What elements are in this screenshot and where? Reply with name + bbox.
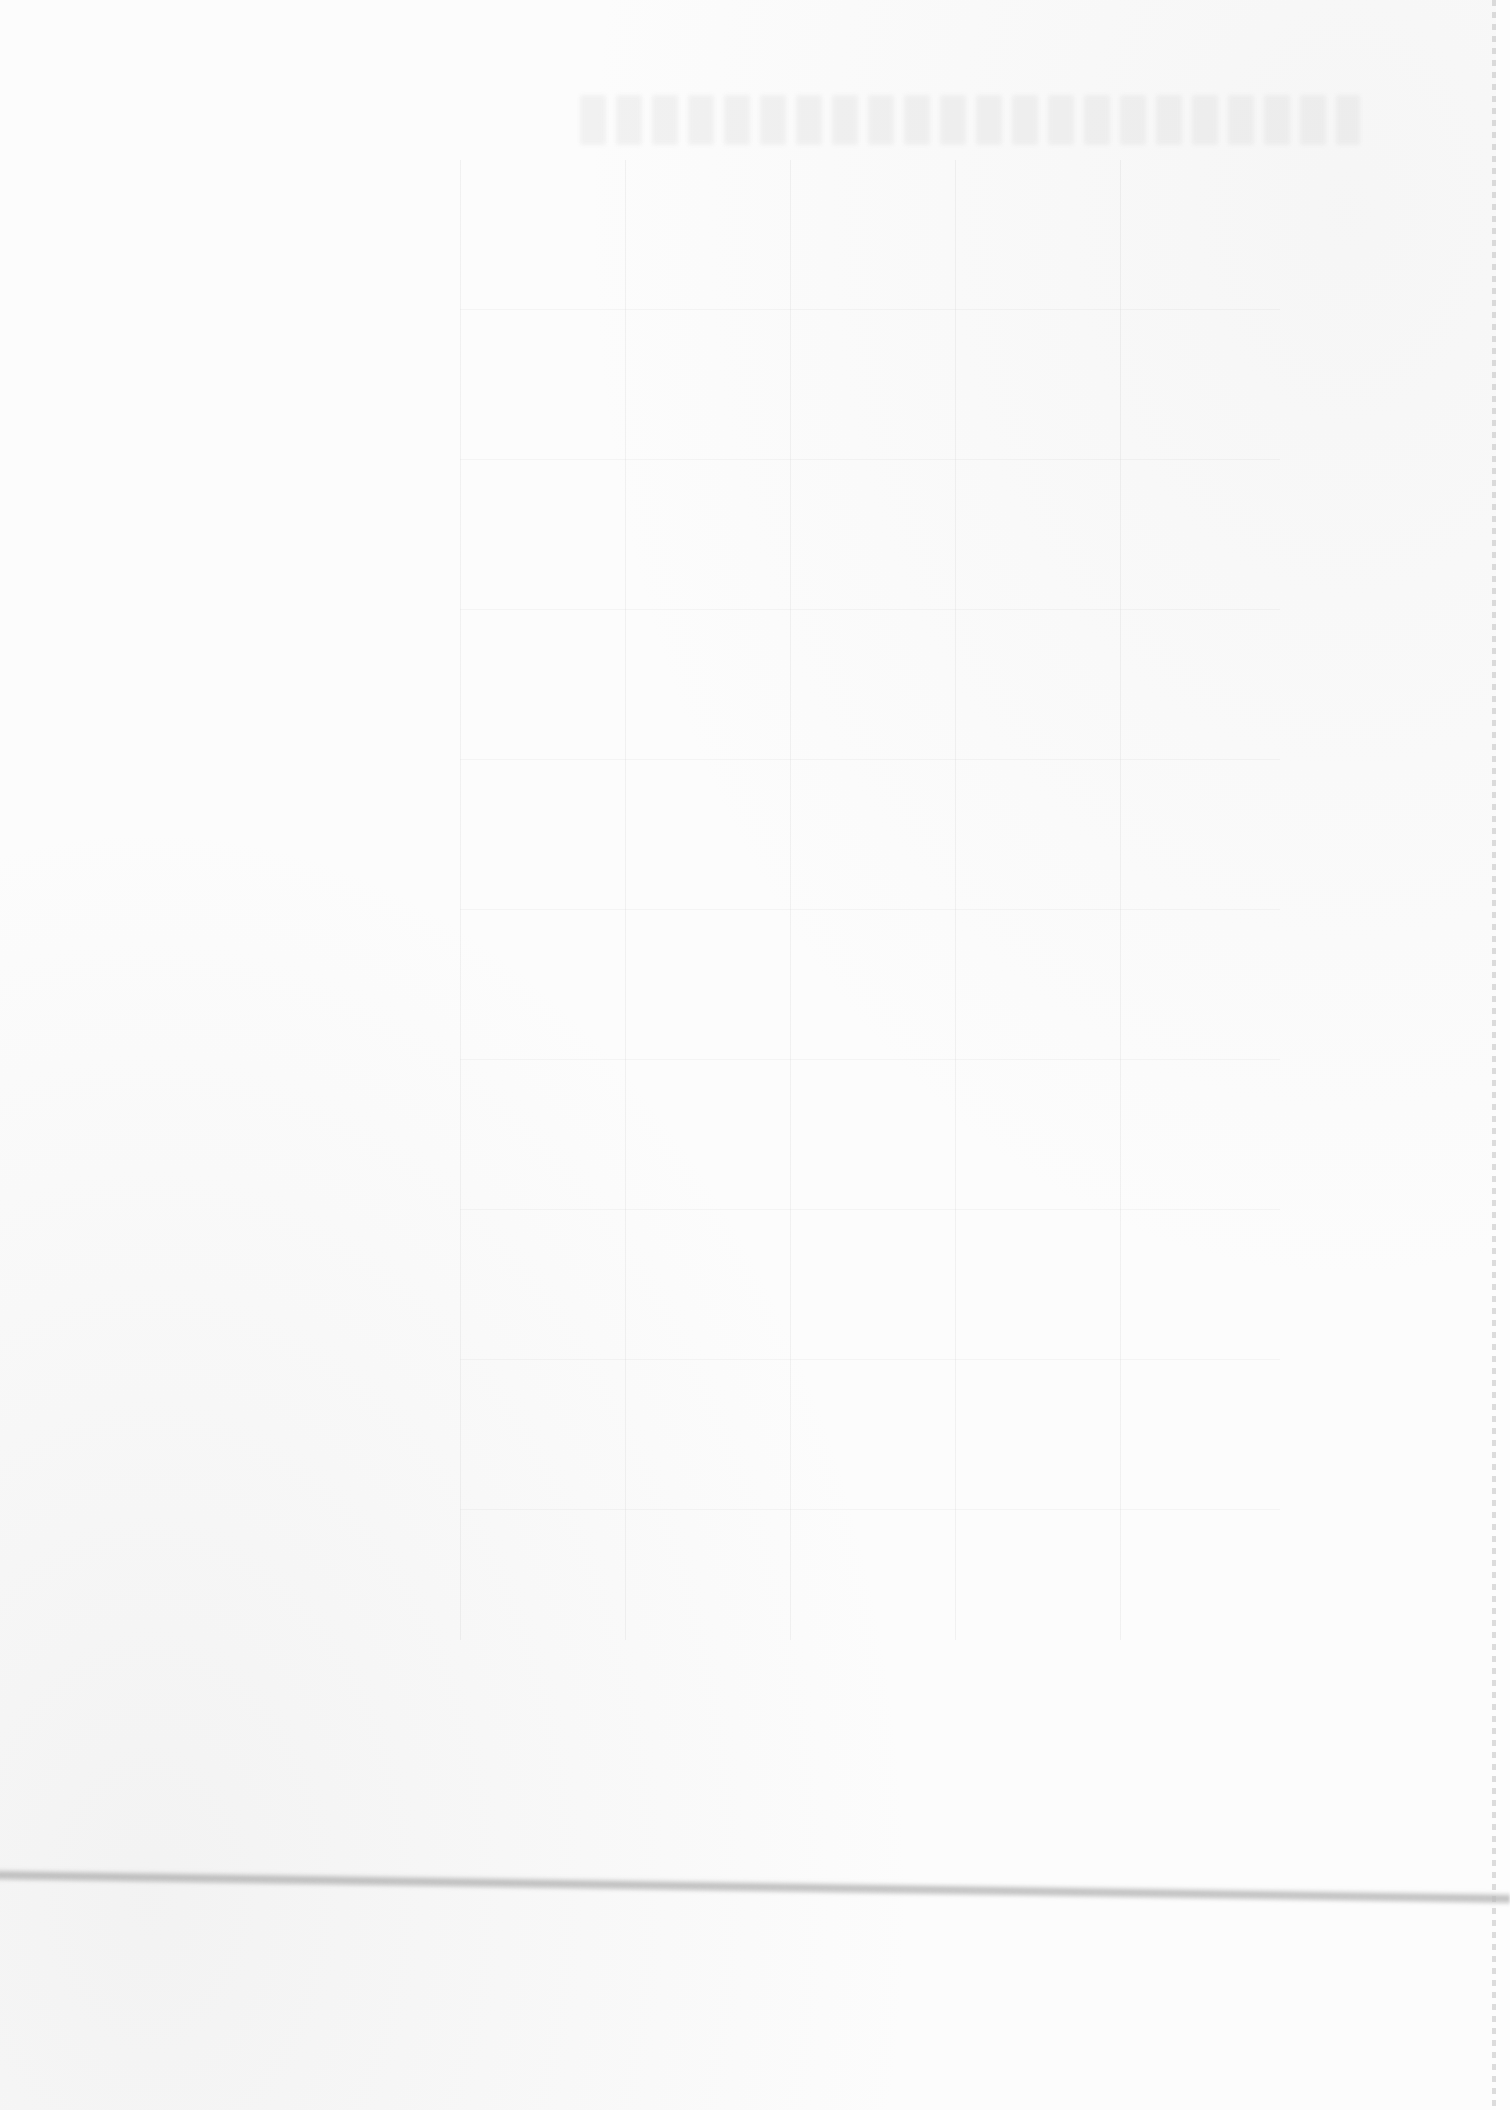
page-text xyxy=(0,0,1,1)
bleed-through-title xyxy=(580,95,1360,145)
page-edge xyxy=(1492,0,1496,2110)
bleed-through-table xyxy=(460,160,1280,1640)
scanner-streak xyxy=(0,1868,1510,1906)
